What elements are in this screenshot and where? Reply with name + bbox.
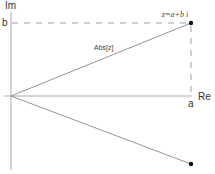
conjugate-point xyxy=(189,162,193,166)
z-vector xyxy=(11,23,191,96)
z-point-label: z=a+b i xyxy=(161,10,188,19)
b-tick-label: b xyxy=(2,17,8,28)
a-tick-label: a xyxy=(188,98,194,109)
im-axis-label: Im xyxy=(5,0,16,11)
modulus-label: Abs[z] xyxy=(94,44,114,52)
conjugate-vector xyxy=(11,96,191,164)
z-point xyxy=(189,21,193,25)
re-axis-label: Re xyxy=(198,91,211,102)
complex-plane-diagram: Im Re b a z=a+b i Abs[z] xyxy=(0,0,215,174)
